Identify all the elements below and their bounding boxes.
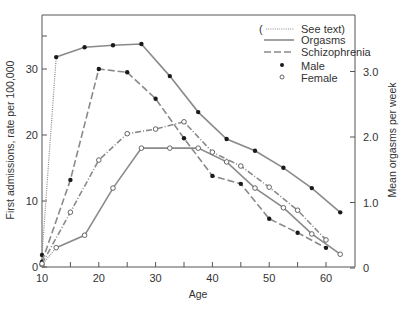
data-point [40, 261, 45, 266]
data-point [139, 146, 144, 151]
legend-paren: ( [259, 23, 263, 35]
data-point [139, 42, 143, 46]
series-female-orgasms [40, 146, 343, 267]
legend-orgasms: Orgasms [301, 34, 346, 46]
x-tick-label: 40 [206, 272, 218, 284]
x-tick-label: 60 [320, 272, 332, 284]
x-tick-label: 20 [93, 272, 105, 284]
legend-schizophrenia: Schizophrenia [301, 46, 372, 58]
data-point [210, 174, 214, 178]
x-axis: 102030405060 [36, 262, 332, 284]
data-point [196, 110, 200, 114]
y-axis-title-right: Mean orgasms per week [386, 82, 398, 198]
data-point [224, 137, 228, 141]
data-point [310, 232, 315, 237]
data-point [54, 55, 58, 59]
y-axis-right: 01.02.03.0 [350, 66, 378, 275]
data-point [295, 230, 299, 234]
data-point [196, 146, 201, 151]
data-point [82, 45, 86, 49]
series-female-schizophrenia [40, 120, 329, 267]
data-point [97, 158, 102, 163]
legend-female-marker [280, 75, 284, 79]
x-tick-label: 50 [263, 272, 275, 284]
data-point [82, 233, 87, 238]
x-tick-label: 10 [36, 272, 48, 284]
y-axis-title-left: First admissions, rate per 100,000 [4, 60, 16, 219]
legend-male: Male [301, 60, 325, 72]
y-tick-label: 10 [26, 195, 38, 207]
data-point [267, 185, 272, 190]
data-point [253, 186, 258, 191]
y-tick-label: 0 [32, 261, 38, 273]
legend-male-marker [280, 63, 284, 67]
series-male-orgasms [40, 42, 343, 257]
y-axis-left: 0102030 [26, 36, 47, 273]
data-point [210, 150, 215, 155]
data-point [111, 43, 115, 47]
chart-canvas: 102030405060 0102030 01.02.03.0 (See tex… [0, 0, 405, 312]
y-right-tick-label: 2.0 [363, 131, 378, 143]
data-point [338, 210, 342, 214]
y-right-tick-label: 3.0 [363, 66, 378, 78]
data-point [168, 146, 173, 151]
data-point [338, 252, 343, 257]
data-point [54, 245, 59, 250]
x-axis-title: Age [189, 288, 208, 300]
data-point [267, 217, 271, 221]
data-point [68, 178, 72, 182]
data-point [224, 160, 229, 165]
data-point [182, 120, 187, 125]
legend-female: Female [301, 72, 338, 84]
data-point [310, 186, 314, 190]
data-point [125, 70, 129, 74]
data-point [324, 246, 328, 250]
data-point [182, 136, 186, 140]
data-point [111, 186, 116, 191]
x-tick-label: 30 [149, 272, 161, 284]
series-layer [40, 42, 343, 267]
data-point [97, 67, 101, 71]
data-point [253, 149, 257, 153]
chart: 102030405060 0102030 01.02.03.0 (See tex… [0, 0, 405, 312]
y-right-tick-label: 1.0 [363, 197, 378, 209]
data-point [281, 166, 285, 170]
y-right-tick-label: 0 [363, 262, 369, 274]
data-point [239, 182, 243, 186]
data-point [239, 164, 244, 169]
data-point [153, 127, 158, 132]
data-point [68, 210, 73, 215]
data-point [168, 74, 172, 78]
data-point [281, 205, 286, 210]
y-tick-label: 20 [26, 129, 38, 141]
data-point [324, 238, 329, 243]
y-tick-label: 30 [26, 63, 38, 75]
data-point [153, 97, 157, 101]
data-point [125, 131, 130, 136]
data-point [295, 208, 300, 213]
